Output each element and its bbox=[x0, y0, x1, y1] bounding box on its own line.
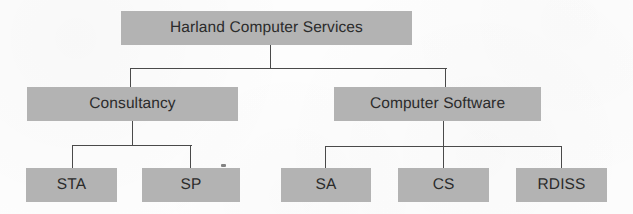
org-chart-diagram: Harland Computer Services Consultancy Co… bbox=[0, 0, 633, 214]
node-unit-sa[interactable]: SA bbox=[281, 168, 371, 202]
connector-consultancy-bar bbox=[72, 145, 192, 146]
connector-to-sta bbox=[72, 145, 73, 168]
node-root-harland-computer-services[interactable]: Harland Computer Services bbox=[121, 11, 412, 45]
node-division-consultancy[interactable]: Consultancy bbox=[27, 87, 238, 121]
connector-to-rdiss bbox=[561, 146, 562, 169]
node-division-computer-software[interactable]: Computer Software bbox=[334, 87, 541, 121]
node-unit-sp[interactable]: SP bbox=[142, 168, 240, 202]
connector-to-computer-software bbox=[445, 68, 446, 88]
scan-artifact-speck bbox=[221, 164, 226, 167]
connector-to-sa bbox=[325, 146, 326, 169]
connector-to-sp bbox=[190, 145, 191, 168]
connector-consultancy-stem bbox=[132, 121, 133, 146]
node-unit-sta[interactable]: STA bbox=[26, 168, 117, 202]
connector-computer-software-stem bbox=[443, 121, 444, 147]
connector-to-cs bbox=[443, 146, 444, 169]
connector-to-consultancy bbox=[130, 68, 131, 88]
node-unit-rdiss[interactable]: RDISS bbox=[516, 168, 607, 202]
node-unit-cs[interactable]: CS bbox=[398, 168, 489, 202]
connector-root-bar bbox=[130, 68, 447, 69]
connector-root-stem bbox=[270, 45, 271, 69]
